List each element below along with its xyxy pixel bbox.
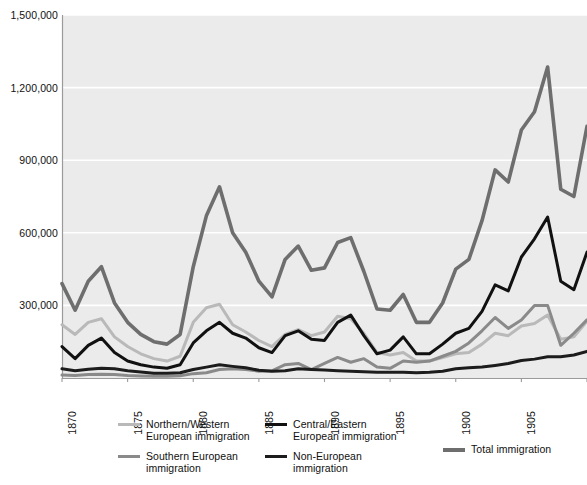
- plot-background: [62, 15, 587, 378]
- y-axis-tick-labels: 1,500,0001,200,000900,000600,000300,000: [0, 0, 58, 395]
- chart-page: 1,500,0001,200,000900,000600,000300,000 …: [0, 0, 587, 485]
- y-tick-label: 1,200,000: [4, 83, 58, 94]
- legend-item-total[interactable]: Total immigration: [443, 443, 551, 455]
- plot-area: [0, 0, 587, 410]
- legend-item-central_eastern[interactable]: Central/Eastern European immigration: [265, 418, 397, 442]
- legend-swatch-central_eastern-icon: [265, 423, 287, 426]
- legend-label-southern: Southern European immigration: [146, 450, 238, 474]
- legend-item-northern_western[interactable]: Northern/Western European immigration: [118, 418, 250, 442]
- y-tick-label: 1,500,000: [4, 10, 58, 21]
- legend-label-total: Total immigration: [471, 443, 551, 455]
- legend-label-central_eastern: Central/Eastern European immigration: [293, 418, 397, 442]
- y-tick-label: 900,000: [4, 155, 58, 166]
- legend-item-southern[interactable]: Southern European immigration: [118, 450, 238, 474]
- legend-label-northern_western: Northern/Western European immigration: [146, 418, 250, 442]
- chart-legend: Northern/Western European immigrationSou…: [0, 412, 587, 485]
- legend-label-non_european: Non-European immigration: [293, 450, 362, 474]
- y-tick-label: 600,000: [4, 228, 58, 239]
- legend-swatch-non_european-icon: [265, 455, 287, 458]
- legend-swatch-southern-icon: [118, 455, 140, 458]
- legend-item-non_european[interactable]: Non-European immigration: [265, 450, 362, 474]
- y-tick-label: 300,000: [4, 300, 58, 311]
- legend-swatch-northern_western-icon: [118, 423, 140, 426]
- immigration-line-chart: 1,500,0001,200,000900,000600,000300,000 …: [0, 0, 587, 410]
- legend-swatch-total-icon: [443, 448, 465, 452]
